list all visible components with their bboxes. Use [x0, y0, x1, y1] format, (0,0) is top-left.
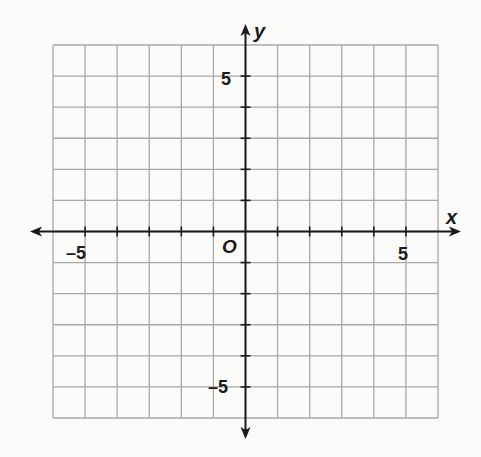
x-tick-label-neg5: –5	[66, 243, 86, 263]
x-axis-label: x	[445, 206, 458, 228]
x-tick-label-5: 5	[398, 244, 408, 264]
coordinate-plane: x y O –5 5 5 –5	[0, 0, 481, 457]
y-axis-label: y	[253, 20, 266, 42]
y-tick-label-neg5: –5	[208, 377, 228, 397]
y-tick-label-5: 5	[221, 69, 231, 89]
origin-label: O	[222, 236, 237, 257]
axes	[30, 24, 461, 439]
